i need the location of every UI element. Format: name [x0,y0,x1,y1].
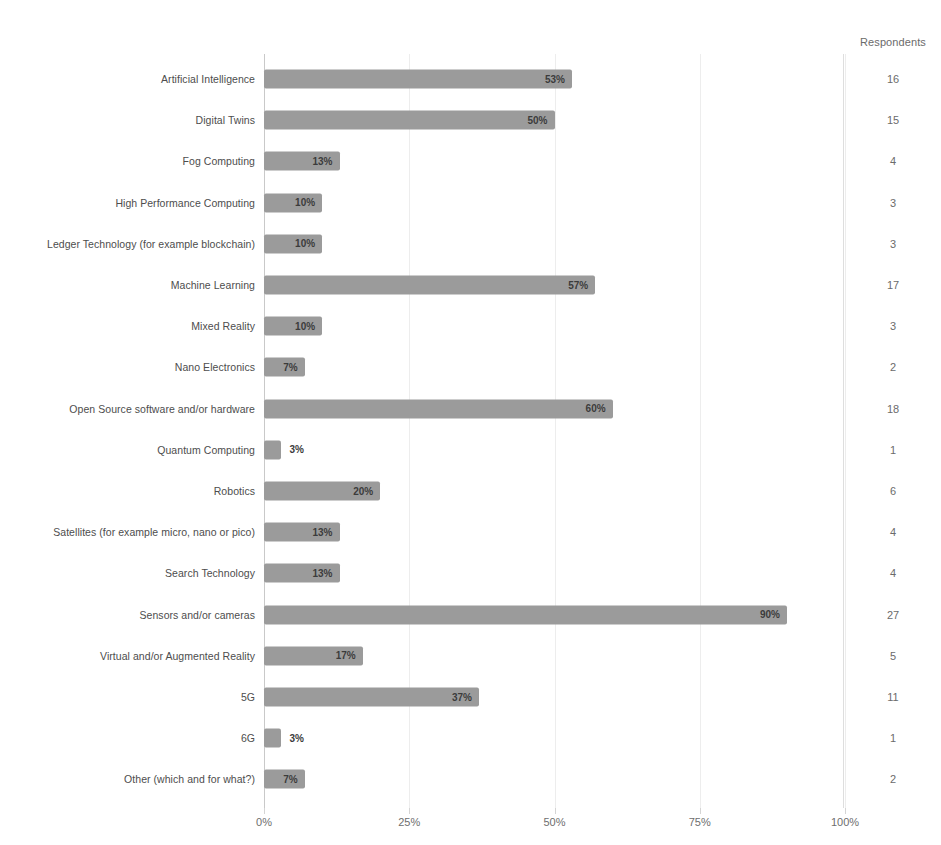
respondents-column-header: Respondents [845,36,941,48]
category-label: Mixed Reality [191,320,255,332]
bar-wrapper: 60% [264,399,613,418]
category-label: Machine Learning [171,279,255,291]
respondent-count: 4 [845,526,941,538]
bar-wrapper: 7% [264,358,305,377]
bar[interactable]: 13% [264,564,340,583]
bar[interactable]: 3% [264,440,281,459]
respondent-count: 15 [845,114,941,126]
respondent-count: 18 [845,403,941,415]
category-label: Digital Twins [196,114,255,126]
bar-value-label: 3% [289,733,303,744]
bar-wrapper: 57% [264,276,595,295]
x-tick-mark [409,808,410,814]
category-label: Sensors and/or cameras [140,609,256,621]
bar-value-label: 10% [295,321,315,332]
bar-wrapper: 10% [264,234,322,253]
bar-row: 6G3%1 [0,728,941,748]
bar-value-label: 37% [452,692,472,703]
bar-value-label: 10% [295,197,315,208]
bar[interactable]: 7% [264,358,305,377]
x-tick-mark [845,808,846,814]
category-label: Artificial Intelligence [161,73,255,85]
bar-value-label: 60% [586,403,606,414]
bar-value-label: 50% [527,115,547,126]
bar-wrapper: 10% [264,317,322,336]
respondent-count: 2 [845,773,941,785]
bar-value-label: 7% [283,362,297,373]
category-label: Fog Computing [183,155,255,167]
category-label: Ledger Technology (for example blockchai… [47,238,255,250]
bar-wrapper: 37% [264,688,479,707]
bar-row: Mixed Reality10%3 [0,316,941,336]
bar-row: Search Technology13%4 [0,563,941,583]
x-tick-label: 75% [689,816,711,828]
bar-row: Robotics20%6 [0,481,941,501]
bar-row: 5G37%11 [0,687,941,707]
bar-row: Satellites (for example micro, nano or p… [0,522,941,542]
bar[interactable]: 10% [264,234,322,253]
category-label: Nano Electronics [175,361,255,373]
bar-value-label: 13% [313,527,333,538]
bar[interactable]: 7% [264,770,305,789]
respondent-count: 6 [845,485,941,497]
category-label: Virtual and/or Augmented Reality [100,650,255,662]
bar[interactable]: 10% [264,317,322,336]
bar-row: High Performance Computing10%3 [0,193,941,213]
bar-row: Nano Electronics7%2 [0,357,941,377]
bar[interactable]: 53% [264,70,572,89]
respondent-count: 16 [845,73,941,85]
category-label: Search Technology [165,567,255,579]
bar[interactable]: 20% [264,482,380,501]
bar[interactable]: 57% [264,276,595,295]
bar[interactable]: 60% [264,399,613,418]
bar-wrapper: 50% [264,111,555,130]
bar-value-label: 20% [353,486,373,497]
bar-value-label: 53% [545,74,565,85]
bar-wrapper: 13% [264,152,340,171]
respondent-count: 1 [845,444,941,456]
bar[interactable]: 50% [264,111,555,130]
bar-wrapper: 20% [264,482,380,501]
bar-row: Open Source software and/or hardware60%1… [0,399,941,419]
bar-row: Virtual and/or Augmented Reality17%5 [0,646,941,666]
bar-value-label: 7% [283,774,297,785]
bar[interactable]: 3% [264,729,281,748]
bar-row: Other (which and for what?)7%2 [0,769,941,789]
bar[interactable]: 13% [264,523,340,542]
bar-row: Digital Twins50%15 [0,110,941,130]
bar-row: Quantum Computing3%1 [0,440,941,460]
bar-row: Fog Computing13%4 [0,151,941,171]
bar-wrapper: 13% [264,564,340,583]
horizontal-bar-chart: Respondents 0%25%50%75%100% Artificial I… [0,0,941,845]
bar-value-label: 90% [760,609,780,620]
respondent-count: 4 [845,567,941,579]
category-label: Open Source software and/or hardware [69,403,255,415]
bar[interactable]: 10% [264,193,322,212]
bar-value-label: 13% [313,156,333,167]
bar-value-label: 3% [289,444,303,455]
bar-value-label: 17% [336,650,356,661]
category-label: Other (which and for what?) [124,773,255,785]
bar-value-label: 10% [295,238,315,249]
respondent-count: 2 [845,361,941,373]
x-tick-label: 50% [543,816,565,828]
bar-row: Artificial Intelligence53%16 [0,69,941,89]
bar-wrapper: 3% [264,440,281,459]
bar-wrapper: 13% [264,523,340,542]
bar[interactable]: 13% [264,152,340,171]
bar[interactable]: 37% [264,688,479,707]
bar-value-label: 13% [313,568,333,579]
respondent-count: 3 [845,320,941,332]
respondent-count: 27 [845,609,941,621]
respondent-count: 11 [845,691,941,703]
respondent-count: 3 [845,238,941,250]
bar-wrapper: 53% [264,70,572,89]
bar[interactable]: 17% [264,646,363,665]
category-label: High Performance Computing [115,197,255,209]
respondent-count: 4 [845,155,941,167]
x-tick-label: 0% [256,816,272,828]
bar-row: Machine Learning57%17 [0,275,941,295]
bar-wrapper: 10% [264,193,322,212]
bar[interactable]: 90% [264,605,787,624]
bar-row: Sensors and/or cameras90%27 [0,605,941,625]
